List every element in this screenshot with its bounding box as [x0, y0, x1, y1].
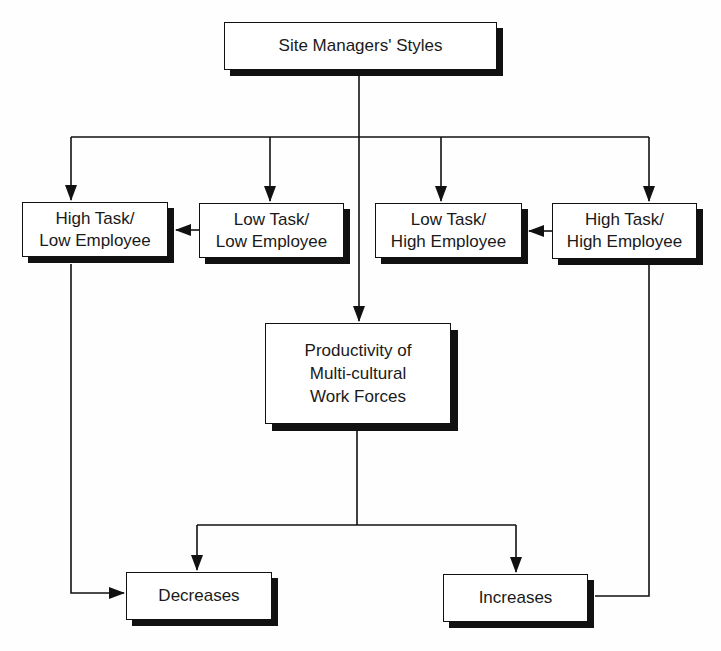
- node-site-managers-styles: Site Managers' Styles: [224, 22, 497, 70]
- node-label: High Task/ Low Employee: [39, 208, 151, 252]
- node-label: Decreases: [158, 585, 239, 607]
- node-label: Low Task/ Low Employee: [216, 209, 328, 253]
- flowchart-canvas: Site Managers' Styles High Task/ Low Emp…: [0, 0, 721, 651]
- node-high-task-low-employee: High Task/ Low Employee: [22, 202, 168, 257]
- node-productivity: Productivity of Multi-cultural Work Forc…: [265, 323, 451, 424]
- node-label: Productivity of Multi-cultural Work Forc…: [305, 339, 412, 408]
- node-label: Site Managers' Styles: [279, 35, 443, 57]
- node-high-task-high-employee: High Task/ High Employee: [552, 203, 697, 259]
- node-label: Increases: [479, 587, 553, 609]
- node-low-task-low-employee: Low Task/ Low Employee: [199, 203, 344, 258]
- path-high-low-to-decreases: [71, 264, 124, 593]
- node-increases: Increases: [443, 574, 588, 622]
- node-label: High Task/ High Employee: [567, 209, 682, 253]
- path-high-high-to-increases: [595, 265, 649, 596]
- node-decreases: Decreases: [126, 572, 272, 620]
- node-label: Low Task/ High Employee: [391, 209, 506, 253]
- node-low-task-high-employee: Low Task/ High Employee: [375, 203, 522, 258]
